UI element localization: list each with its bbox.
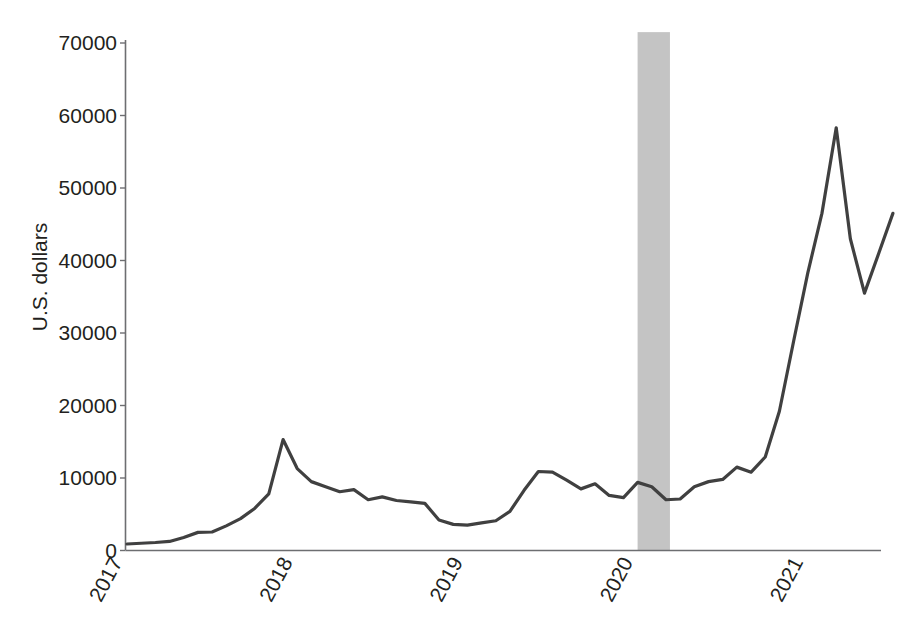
y-tick-label: 50000 xyxy=(59,176,117,199)
x-tick-label: 2019 xyxy=(425,553,467,605)
x-tick-label: 2021 xyxy=(765,553,807,605)
y-tick-label: 30000 xyxy=(59,321,117,344)
x-tick-label: 2020 xyxy=(595,553,637,605)
y-tick-label: 70000 xyxy=(59,31,117,54)
y-axis-tick-labels: 010000200003000040000500006000070000 xyxy=(59,31,126,562)
y-tick-label: 20000 xyxy=(59,394,117,417)
x-axis-tick-labels: 20172018201920202021 xyxy=(84,553,807,605)
y-axis-title: U.S. dollars xyxy=(28,223,51,332)
line-chart: 010000200003000040000500006000070000 201… xyxy=(0,0,913,634)
x-tick-label: 2017 xyxy=(84,553,126,605)
y-tick-label: 60000 xyxy=(59,104,117,127)
shaded-recession-band xyxy=(638,32,670,550)
price-series-line xyxy=(127,128,893,544)
y-tick-label: 40000 xyxy=(59,249,117,272)
x-tick-label: 2018 xyxy=(254,553,296,605)
y-tick-label: 10000 xyxy=(59,466,117,489)
chart-container: 010000200003000040000500006000070000 201… xyxy=(0,0,913,634)
